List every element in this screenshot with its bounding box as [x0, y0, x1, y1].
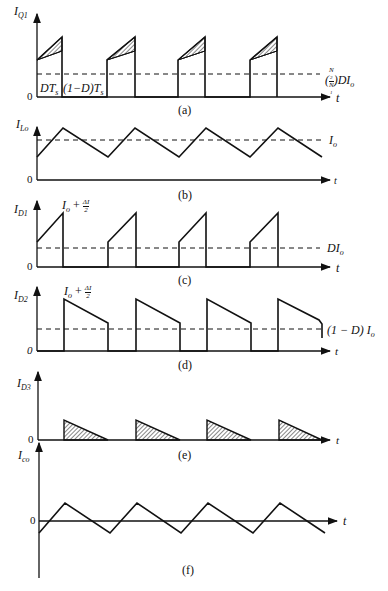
panel-e-zero: 0 — [28, 434, 34, 445]
panel-e-caption: (e) — [178, 449, 191, 461]
panel-d-waveform — [37, 299, 322, 351]
panel-f-ylabel: Ico — [18, 449, 30, 464]
panel-d-xlabel: t — [335, 346, 338, 357]
panel-f-waveform — [39, 503, 325, 533]
panel-a-dashed-label: (N2N1)DIo — [325, 67, 354, 96]
panel-c-ylabel: ID1 — [14, 203, 28, 218]
panel-f-caption: (f) — [182, 564, 194, 576]
panel-a-interval-off: (1−D)Ts — [63, 82, 104, 97]
panel-d-caption: (d) — [178, 359, 192, 371]
panel-d-zero: 0 — [27, 345, 33, 356]
panel-c-caption: (c) — [178, 274, 191, 286]
panel-b-zero: 0 — [27, 174, 33, 185]
panel-c-peak-label: Io + ΔI2 — [62, 199, 89, 214]
panel-c-dashed-label: DIo — [327, 242, 344, 257]
panel-d-ylabel: ID2 — [14, 289, 28, 304]
panel-b-dashed-label: Io — [329, 134, 337, 149]
panel-f-zero: 0 — [30, 515, 36, 526]
panel-e-ylabel: ID3 — [17, 377, 31, 392]
panel-c-xlabel: t — [336, 262, 339, 274]
panel-d-peak-label: Io + ΔI2 — [64, 285, 91, 300]
panel-a-zero: 0 — [27, 91, 33, 102]
panel-e-xlabel: t — [336, 435, 339, 446]
panel-c-zero: 0 — [27, 261, 33, 272]
panel-a-caption: (a) — [178, 104, 191, 116]
panel-e-waveform — [64, 420, 322, 440]
panel-b-xlabel: t — [334, 176, 337, 186]
panel-f-xlabel: t — [343, 515, 346, 527]
panel-b-caption: (b) — [178, 189, 192, 201]
panel-a-ylabel: IQ1 — [14, 5, 28, 20]
panel-b-ylabel: ILo — [16, 118, 28, 133]
panel-b-axes — [37, 127, 330, 180]
panel-d-dashed-label: (1 − D) Io — [327, 324, 375, 339]
panel-a-interval-on: DTs — [40, 82, 58, 97]
panel-c-waveform — [37, 213, 278, 267]
panel-b-waveform — [37, 128, 322, 157]
